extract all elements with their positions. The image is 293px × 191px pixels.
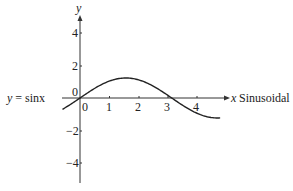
x-axis-label: x	[231, 92, 236, 104]
x-tick-1: 1	[106, 101, 112, 113]
x-axis-arrow-icon	[224, 96, 230, 101]
x-tick-4: 4	[193, 101, 199, 113]
y-tick-neg2: −2	[66, 125, 79, 137]
y-origin-label: 0	[72, 86, 78, 98]
x-tick-2: 2	[135, 101, 141, 113]
y-tick-2: 2	[72, 60, 78, 72]
y-axis-arrow-icon	[78, 15, 83, 21]
right-annotation: Sinusoidal	[239, 92, 290, 104]
y-axis-label: y	[76, 2, 81, 14]
x-tick-0: 0	[82, 101, 88, 113]
y-tick-4: 4	[72, 27, 78, 39]
x-tick-3: 3	[164, 101, 170, 113]
curve-annotation: y = sinx	[7, 92, 45, 104]
y-tick-neg4: −4	[66, 157, 79, 169]
